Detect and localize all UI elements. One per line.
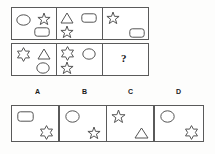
rounded-rectangle-shape	[81, 13, 97, 23]
option-box-d[interactable]	[154, 105, 204, 142]
circle-shape	[16, 14, 31, 26]
six-point-star-shape	[16, 47, 31, 62]
option-label-c: C	[128, 88, 133, 95]
option-box-c[interactable]	[106, 105, 154, 142]
option-label-b: B	[82, 88, 87, 95]
puzzle-root: ? A B C D	[0, 0, 215, 154]
six-point-star-shape	[184, 125, 199, 140]
matrix-cell-r2c3-answer-slot[interactable]: ?	[103, 44, 148, 75]
triangle-shape	[37, 48, 51, 60]
five-point-star-shape	[37, 12, 51, 26]
matrix-cell-r2c1[interactable]	[12, 44, 57, 75]
triangle-shape	[60, 12, 74, 24]
circle-shape	[36, 62, 50, 74]
matrix-row-1	[11, 7, 149, 40]
five-point-star-shape	[106, 11, 120, 25]
circle-shape	[160, 110, 175, 123]
rounded-rectangle-shape	[34, 27, 50, 37]
option-label-d: D	[176, 88, 181, 95]
matrix-grid: ?	[11, 7, 149, 79]
matrix-cell-r1c3[interactable]	[103, 8, 148, 39]
matrix-row-2: ?	[11, 43, 149, 76]
five-point-star-shape	[60, 61, 74, 75]
rounded-rectangle-shape	[129, 28, 145, 38]
five-point-star-shape	[60, 25, 74, 39]
five-point-star-shape	[111, 109, 126, 124]
question-mark: ?	[121, 53, 127, 64]
matrix-cell-r2c2[interactable]	[57, 44, 103, 75]
option-labels: A B C D	[0, 88, 215, 100]
six-point-star-shape	[60, 46, 75, 61]
five-point-star-shape	[87, 126, 101, 140]
matrix-cell-r1c1[interactable]	[12, 8, 57, 39]
circle-shape	[65, 110, 80, 123]
option-box-a[interactable]	[11, 105, 59, 142]
option-box-b[interactable]	[59, 105, 107, 142]
six-point-star-shape	[39, 125, 54, 140]
option-label-a: A	[35, 88, 40, 95]
matrix-cell-r1c2[interactable]	[57, 8, 103, 39]
circle-shape	[82, 48, 96, 60]
triangle-shape	[134, 127, 149, 139]
rounded-rectangle-shape	[17, 111, 34, 122]
